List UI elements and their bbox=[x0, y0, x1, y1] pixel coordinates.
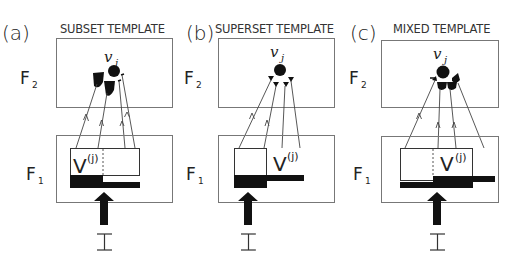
node-vj-b bbox=[274, 64, 286, 76]
arrow-chevron-b2 bbox=[265, 120, 269, 126]
layer-label-f1-a: F bbox=[26, 164, 36, 184]
layer-label-f1-b: F bbox=[186, 164, 196, 184]
layer-label-f2-c: F bbox=[349, 68, 359, 88]
layer-sub-f1-c: 1 bbox=[365, 176, 371, 186]
pathway-c1 bbox=[405, 78, 436, 148]
pathway-b3 bbox=[282, 86, 285, 148]
synapse-small-a4 bbox=[121, 74, 124, 75]
pathway-b4 bbox=[291, 81, 300, 148]
panel-a-subset-template: (a) SUBSET TEMPLATE F 2 v j F 1 V (j) bbox=[2, 21, 173, 250]
layer-sub-f2-b: 2 bbox=[196, 80, 202, 90]
template-label-a: V bbox=[73, 154, 87, 178]
input-label-a-symbol bbox=[97, 234, 112, 250]
art-diagram: (a) SUBSET TEMPLATE F 2 v j F 1 V (j) bbox=[0, 0, 529, 261]
input-bar-c-left bbox=[400, 182, 473, 188]
input-arrow-b bbox=[238, 192, 258, 225]
synapse-knob-c4 bbox=[452, 73, 460, 83]
panel-label-a: (a) bbox=[2, 21, 30, 45]
layer-label-f2-b: F bbox=[184, 68, 194, 88]
template-sup-b: (j) bbox=[287, 150, 299, 163]
input-label-c-symbol bbox=[430, 234, 445, 250]
template-sup-a: (j) bbox=[87, 152, 99, 165]
synapse-knob-b3 bbox=[283, 82, 289, 87]
layer-label-f1-c: F bbox=[353, 164, 363, 184]
template-label-b: V bbox=[273, 152, 287, 176]
synapse-knob-c2 bbox=[437, 82, 447, 90]
template-label-c: V bbox=[440, 152, 454, 176]
panel-b-superset-template: (b) SUPERSET TEMPLATE F 2 v j F 1 V (j) bbox=[184, 21, 335, 250]
panel-title-a: SUBSET TEMPLATE bbox=[60, 22, 165, 36]
pathway-c4 bbox=[458, 83, 484, 148]
pathway-b2 bbox=[264, 86, 276, 148]
layer-sub-f1-a: 1 bbox=[38, 176, 44, 186]
input-arrow-c bbox=[427, 192, 447, 225]
layer-label-f2-a: F bbox=[20, 68, 30, 88]
node-vj-a bbox=[108, 65, 120, 77]
input-bar-a-left bbox=[70, 175, 103, 182]
panel-title-c: MIXED TEMPLATE bbox=[393, 22, 490, 36]
layer-sub-f1-b: 1 bbox=[198, 176, 204, 186]
panel-label-c: (c) bbox=[350, 21, 377, 45]
input-label-b-symbol bbox=[241, 234, 256, 250]
node-label-b: v bbox=[270, 43, 279, 61]
input-bar-b-right bbox=[267, 175, 304, 181]
node-sub-b: j bbox=[279, 52, 284, 63]
pathway-c2 bbox=[438, 89, 440, 148]
node-sub-c: j bbox=[442, 54, 447, 65]
input-arrow-a bbox=[94, 192, 114, 225]
synapse-small-a3 bbox=[118, 80, 121, 81]
input-bar-c-right bbox=[433, 176, 495, 182]
template-sup-c: (j) bbox=[455, 151, 467, 164]
layer-sub-f2-a: 2 bbox=[32, 80, 38, 90]
input-bar-a-right-lower bbox=[103, 182, 140, 188]
synapse-knob-a2 bbox=[104, 81, 115, 96]
pathway-a2 bbox=[98, 93, 107, 148]
node-label-c: v bbox=[433, 45, 442, 63]
arrow-chevron-c2 bbox=[436, 122, 440, 128]
arrow-chevron-a3 bbox=[120, 121, 124, 126]
panel-c-mixed-template: (c) MIXED TEMPLATE F 2 v j F 1 V (j) bbox=[349, 21, 499, 250]
node-vj-c bbox=[437, 66, 450, 79]
pathway-a3 bbox=[119, 81, 125, 148]
synapse-knob-a1 bbox=[93, 72, 104, 87]
node-label-a: v bbox=[104, 48, 113, 66]
template-box-b bbox=[235, 149, 267, 177]
synapse-knob-c3 bbox=[447, 82, 457, 90]
input-bar-b-left bbox=[234, 175, 267, 188]
pathway-c3 bbox=[450, 89, 456, 148]
panel-label-b: (b) bbox=[186, 21, 214, 45]
input-bar-a-left-lower bbox=[70, 182, 103, 188]
panel-title-b: SUPERSET TEMPLATE bbox=[215, 22, 334, 36]
layer-sub-f2-c: 2 bbox=[361, 80, 367, 90]
